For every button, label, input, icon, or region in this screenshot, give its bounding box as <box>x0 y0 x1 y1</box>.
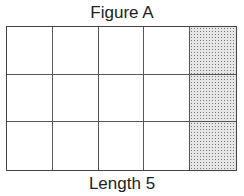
grid-cell <box>53 122 99 170</box>
grid-cell <box>99 27 145 75</box>
grid-cell <box>99 122 145 170</box>
figure-caption: Length 5 <box>0 174 244 194</box>
grid-cell <box>7 75 53 123</box>
grid-cell <box>53 75 99 123</box>
grid-cell <box>99 75 145 123</box>
grid-cell <box>7 27 53 75</box>
grid-cell <box>144 122 190 170</box>
shaded-grid-cell <box>190 122 236 170</box>
shaded-grid-cell <box>190 27 236 75</box>
rectangle-grid <box>6 26 237 171</box>
grid-cell <box>53 27 99 75</box>
grid-cell <box>144 27 190 75</box>
shaded-grid-cell <box>190 75 236 123</box>
grid-cell <box>7 122 53 170</box>
figure-title: Figure A <box>0 3 244 23</box>
grid-cell <box>144 75 190 123</box>
